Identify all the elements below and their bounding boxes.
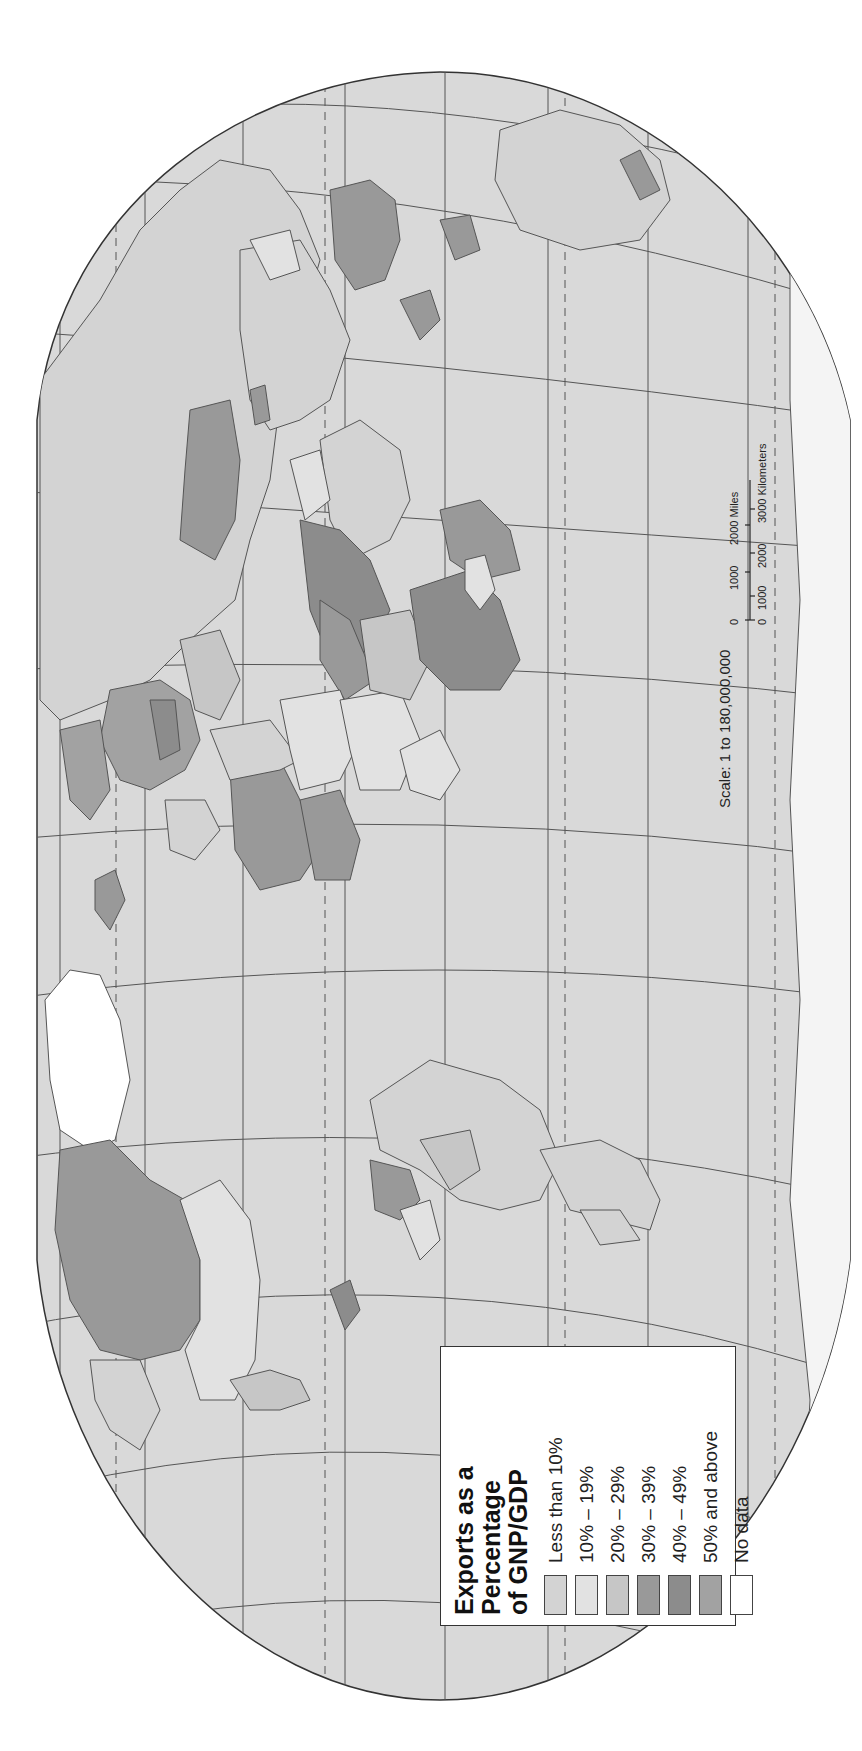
scale-text: Scale: 1 to 180,000,000: [716, 650, 733, 808]
legend-label: No data: [731, 1496, 753, 1563]
legend-label: Less than 10%: [545, 1437, 567, 1563]
legend-item-40-49: 40% – 49%: [664, 1359, 695, 1615]
scale-km-3000: 3000 Kilometers: [756, 444, 768, 524]
swatch-10-19: [575, 1575, 598, 1615]
swatch-30-39: [637, 1575, 660, 1615]
legend-title-line2: of GNP/GDP: [505, 1359, 532, 1615]
legend-label: 50% and above: [700, 1431, 722, 1563]
legend-label: 20% – 29%: [607, 1466, 629, 1563]
swatch-50-above: [699, 1575, 722, 1615]
legend-item-10-19: 10% – 19%: [571, 1359, 602, 1615]
scale-miles-0: 0: [728, 619, 740, 625]
swatch-less-than-10: [544, 1575, 567, 1615]
swatch-40-49: [668, 1575, 691, 1615]
legend-item-no-data: No data: [726, 1359, 757, 1615]
legend-item-30-39: 30% – 39%: [633, 1359, 664, 1615]
swatch-20-29: [606, 1575, 629, 1615]
scale-miles-1000: 1000: [728, 566, 740, 590]
map-legend: Exports as a Percentage of GNP/GDP Less …: [440, 1346, 736, 1626]
legend-item-20-29: 20% – 29%: [602, 1359, 633, 1615]
legend-title-line1: Exports as a Percentage: [451, 1359, 505, 1615]
scale-km-1000: 1000: [756, 586, 768, 610]
swatch-no-data: [730, 1575, 753, 1615]
legend-label: 30% – 39%: [638, 1466, 660, 1563]
legend-label: 40% – 49%: [669, 1466, 691, 1563]
legend-title: Exports as a Percentage of GNP/GDP: [451, 1359, 532, 1615]
legend-item-less-than-10: Less than 10%: [540, 1359, 571, 1615]
scale-km-0: 0: [756, 619, 768, 625]
scale-km-2000: 2000: [756, 544, 768, 568]
legend-label: 10% – 19%: [576, 1466, 598, 1563]
legend-item-50-above: 50% and above: [695, 1359, 726, 1615]
scale-miles-2000: 2000 Miles: [728, 492, 740, 545]
